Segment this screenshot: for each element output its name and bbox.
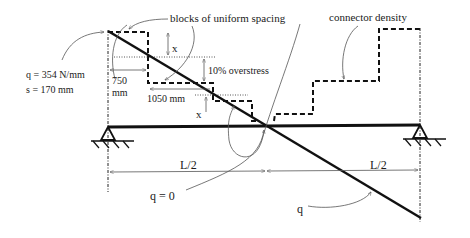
left-support xyxy=(91,127,134,148)
q-value-leader xyxy=(62,32,104,60)
overstress-label: 10% overstress xyxy=(208,65,269,76)
connector-density-steps-right xyxy=(274,29,420,121)
dim-750-unit: mm xyxy=(112,87,128,98)
center-leader-a xyxy=(228,24,300,157)
half-right-label: L/2 xyxy=(370,158,387,172)
q-label: q xyxy=(297,202,303,216)
right-support xyxy=(403,125,446,146)
blocks-leader-1 xyxy=(129,19,168,29)
connector-density-leader xyxy=(113,25,127,79)
q-zero-label: q = 0 xyxy=(150,189,175,203)
blocks-leader-2 xyxy=(165,26,194,80)
connector-density-leader-2 xyxy=(343,26,358,79)
x-top-label: x xyxy=(172,42,178,54)
q-value-label: q = 354 N/mm xyxy=(26,69,85,80)
half-left-label: L/2 xyxy=(180,158,197,172)
connector-density-label: connector density xyxy=(329,11,407,23)
dim-750-label: 750 xyxy=(112,75,127,86)
blocks-label: blocks of uniform spacing xyxy=(170,12,286,24)
s-value-label: s = 170 mm xyxy=(26,84,74,95)
dim-1050-label: 1050 mm xyxy=(147,93,185,104)
beam-shear-connector-diagram: blocks of uniform spacing connector dens… xyxy=(0,0,470,238)
x-bottom-label: x xyxy=(196,108,202,120)
q-leader xyxy=(308,192,371,207)
q-zero-leader xyxy=(186,130,264,190)
half-right-dim xyxy=(267,170,418,171)
